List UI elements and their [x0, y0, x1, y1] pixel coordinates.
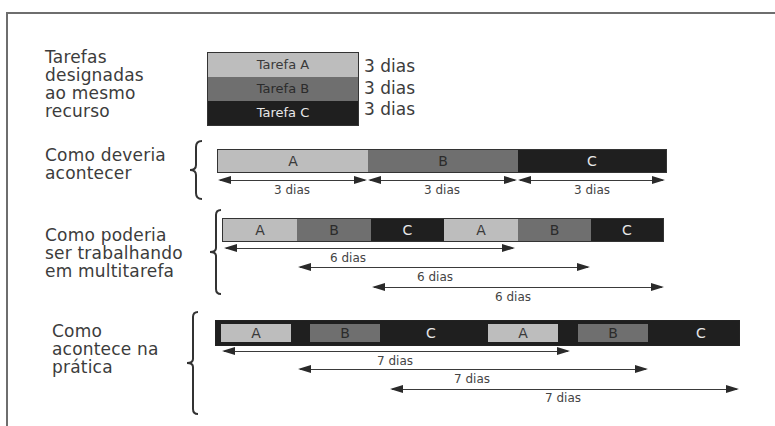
span-arrow [220, 180, 365, 181]
scenario-3-bar: A B C A B C [215, 320, 740, 346]
span-arrow [520, 180, 663, 181]
segment-a: A [218, 150, 368, 172]
brace-icon [186, 139, 206, 201]
span-label: 3 dias [402, 183, 482, 197]
frame-top-border [6, 12, 775, 14]
span-label: 7 dias [355, 354, 435, 368]
legend-task-b: Tarefa B [208, 77, 358, 101]
segment-b: B [368, 150, 518, 172]
segment-c: C [591, 219, 663, 241]
span-arrow [224, 351, 568, 352]
span-label: 3 dias [252, 183, 332, 197]
scenario-3-title: Como acontece na prática [52, 322, 159, 376]
span-arrow [370, 180, 515, 181]
segment-c: C [518, 150, 666, 172]
segment-a: A [444, 219, 518, 241]
span-arrow [300, 267, 588, 268]
segment-a: A [223, 219, 297, 241]
segment-b: B [578, 324, 648, 342]
segment-a: A [221, 324, 291, 342]
legend-duration-a: 3 dias [364, 57, 415, 75]
span-label: 3 dias [552, 183, 632, 197]
span-arrow [392, 389, 737, 390]
scenario-1-title: Como deveria acontecer [45, 146, 166, 182]
span-label: 7 dias [432, 372, 512, 386]
legend-box: Tarefa A Tarefa B Tarefa C [207, 52, 359, 126]
legend-task-c: Tarefa C [208, 101, 358, 125]
segment-b: B [518, 219, 591, 241]
segment-a: A [488, 324, 558, 342]
span-label: 6 dias [308, 251, 388, 265]
span-arrow [374, 287, 662, 288]
segment-c: C [396, 324, 466, 342]
legend-duration-c: 3 dias [364, 100, 415, 118]
segment-c: C [666, 324, 736, 342]
span-label: 6 dias [473, 290, 553, 304]
brace-icon [205, 208, 223, 296]
scenario-2-title: Como poderia ser trabalhando em multitar… [45, 226, 183, 280]
legend-task-a: Tarefa A [208, 53, 358, 77]
span-label: 6 dias [395, 270, 475, 284]
span-label: 7 dias [523, 391, 603, 405]
brace-icon [182, 310, 202, 416]
span-arrow [300, 369, 646, 370]
frame-left-border [6, 12, 8, 426]
legend-title: Tarefas designadas ao mesmo recurso [45, 48, 144, 120]
segment-b: B [310, 324, 380, 342]
segment-c: C [371, 219, 444, 241]
scenario-2-bar: A B C A B C [222, 218, 664, 242]
span-arrow [226, 248, 513, 249]
segment-b: B [297, 219, 371, 241]
scenario-1-bar: A B C [217, 149, 667, 173]
legend-duration-b: 3 dias [364, 79, 415, 97]
